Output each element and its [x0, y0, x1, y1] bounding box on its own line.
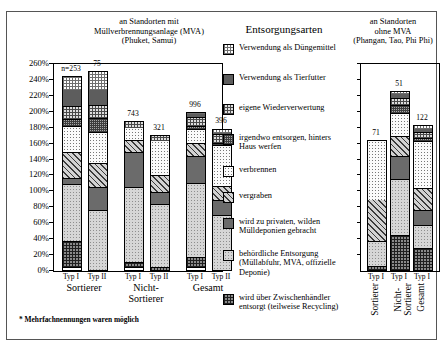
bar-segment: [151, 141, 169, 176]
stacked-bar[interactable]: [390, 91, 410, 271]
y-axis-tick-label: 200%: [29, 106, 49, 115]
legend-item[interactable]: eigene Wiederverwertung: [223, 103, 324, 115]
chart-frame: an Standorten mitMüllverbrennungsanlage …: [6, 11, 437, 340]
bar-segment: [89, 72, 107, 90]
legend-item-label: irgendwo entsorgen, hinters Haus werfen: [239, 133, 343, 152]
right-axis-tick-mark: [357, 127, 361, 128]
bar-value-label: 396: [215, 117, 226, 125]
bar-segment: [63, 90, 81, 108]
bar-segment: [391, 236, 409, 271]
legend-swatch-icon: [223, 294, 234, 305]
bar-segment: [125, 141, 143, 153]
y-axis-tick-label: 180%: [29, 122, 49, 131]
bar-value-label: 743: [127, 110, 138, 118]
x-axis-tick-label: Typ I: [414, 273, 430, 281]
bar-segment: [391, 106, 409, 114]
bar-segment: [187, 144, 205, 157]
left-panel-title-line: an Standorten mit: [51, 17, 247, 27]
legend-item-label: Verwendung als Tierfutter: [239, 73, 326, 82]
footnote: * Mehrfachnennungen waren möglich: [19, 315, 139, 324]
bar-segment: [151, 176, 169, 194]
legend-item[interactable]: wird über Zwischenhändler entsorgt (teil…: [223, 293, 343, 312]
x-group-label-rotated: Gesamt: [416, 283, 426, 312]
stacked-bar[interactable]: [413, 125, 433, 271]
legend-swatch-icon: [223, 134, 234, 145]
y-axis-tick-label: 80%: [33, 202, 49, 211]
bar-segment: [89, 106, 107, 119]
legend-item[interactable]: verbrennen: [223, 165, 276, 177]
bar-segment: [414, 249, 432, 271]
x-axis-tick-label: Typ I: [63, 273, 79, 281]
right-axis-tick-mark: [357, 95, 361, 96]
bar-segment: [414, 211, 432, 226]
right-panel-title-line: (Phangan, Tao, Phi Phi): [337, 36, 445, 46]
y-axis-tick-label: 20%: [33, 250, 49, 259]
legend-swatch-icon: [223, 104, 234, 115]
legend-swatch-icon: [223, 218, 234, 229]
legend-item[interactable]: vergraben: [223, 191, 272, 203]
stacked-bar[interactable]: [88, 71, 108, 271]
bar-segment: [125, 263, 143, 268]
x-group-label-rotated: Sortierer: [370, 283, 380, 316]
y-axis-tick-label: 40%: [33, 234, 49, 243]
legend-title: Entsorgungsarten: [223, 25, 345, 35]
stacked-bar[interactable]: [186, 112, 206, 271]
legend-item[interactable]: wird zu privaten, wilden Mülldeponien ge…: [223, 217, 343, 236]
right-axis-tick-mark: [357, 111, 361, 112]
x-axis-tick-label: Typ II: [212, 273, 231, 281]
x-group-label: Gesamt: [193, 283, 224, 294]
right-axis-tick-mark: [357, 238, 361, 239]
x-axis-tick-label: Typ I: [368, 273, 384, 281]
bar-segment: [187, 184, 205, 258]
y-axis-tick-label: 260%: [29, 59, 49, 68]
bar-segment: [187, 130, 205, 144]
right-plot-area: [360, 63, 440, 272]
bar-segment: [63, 127, 81, 153]
bar-segment: [151, 205, 169, 268]
legend-swatch-icon: [223, 74, 234, 85]
bar-segment: [213, 201, 231, 216]
right-axis-tick-mark: [357, 174, 361, 175]
legend-item-label: behördliche Entsorgung (Müllabfuhr, MVA,…: [239, 249, 343, 277]
legend-item[interactable]: Verwendung als Tierfutter: [223, 73, 326, 85]
y-axis-tick-label: 220%: [29, 91, 49, 100]
legend-item-label: wird über Zwischenhändler entsorgt (teil…: [239, 293, 343, 312]
stacked-bar[interactable]: [367, 140, 387, 271]
bar-segment: [391, 180, 409, 236]
bar-segment: [89, 133, 107, 163]
legend-item[interactable]: Verwendung als Düngemittel: [223, 43, 336, 55]
legend-item-label: eigene Wiederverwertung: [239, 103, 324, 112]
right-axis-tick-mark: [357, 63, 361, 64]
right-panel-title-line: an Standorten: [337, 17, 445, 27]
stacked-bar[interactable]: [124, 121, 144, 271]
left-panel-title-line: (Phuket, Samui): [51, 36, 247, 46]
right-axis-tick-mark: [357, 206, 361, 207]
bar-segment: [125, 153, 143, 188]
x-group-label: Sortierer: [67, 283, 102, 294]
bar-segment: [391, 114, 409, 138]
legend-item-label: Verwendung als Düngemittel: [239, 43, 336, 52]
x-axis-tick-label: Typ I: [391, 273, 407, 281]
stacked-bar[interactable]: [62, 76, 82, 271]
bar-segment: [414, 189, 432, 210]
left-panel-title-line: Müllverbrennungsanlage (MVA): [51, 27, 247, 37]
x-group-label: Nicht-Sortierer: [129, 283, 164, 304]
bar-segment: [187, 118, 205, 127]
legend-item[interactable]: irgendwo entsorgen, hinters Haus werfen: [223, 133, 343, 152]
bar-segment: [391, 157, 409, 180]
legend-swatch-icon: [223, 44, 234, 55]
bar-segment: [151, 268, 169, 271]
x-axis-tick-label: Typ I: [125, 273, 141, 281]
legend-item-label: verbrennen: [239, 165, 276, 174]
bar-segment: [368, 242, 386, 267]
bar-segment: [187, 258, 205, 268]
stacked-bar[interactable]: [150, 135, 170, 271]
bar-segment: [368, 200, 386, 241]
bar-segment: [89, 211, 107, 271]
bar-segment: [368, 267, 386, 271]
left-plot-area: [53, 63, 223, 272]
legend-item[interactable]: behördliche Entsorgung (Müllabfuhr, MVA,…: [223, 249, 343, 277]
bar-segment: [187, 157, 205, 185]
bar-segment: [151, 193, 169, 205]
bar-segment: [125, 128, 143, 141]
